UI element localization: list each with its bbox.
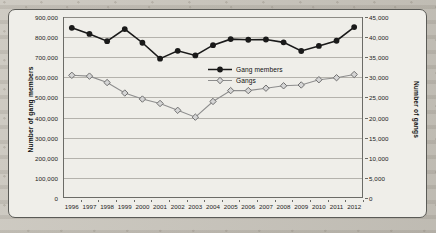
data-point	[227, 87, 233, 93]
legend-key-filled-circle-icon	[207, 64, 233, 75]
x-axis-tick-label: 2004	[206, 203, 220, 210]
legend-label-gang-members: Gang members	[233, 66, 283, 73]
x-axis-tickmark	[345, 200, 346, 202]
data-point	[122, 26, 128, 32]
left-axis-tick-label: 100,000	[35, 174, 58, 181]
right-axis-tickmark	[365, 17, 368, 18]
right-axis-tick-label: 35,000	[369, 54, 389, 61]
right-axis-tickmark	[365, 57, 368, 58]
x-axis-tickmark	[257, 200, 258, 202]
data-point	[298, 48, 304, 54]
right-axis-tick-label: 10,000	[369, 154, 389, 161]
right-axis-tickmark	[365, 158, 368, 159]
right-axis-tick-label: 0	[369, 195, 373, 202]
left-axis-tick-label: 900,000	[35, 14, 58, 21]
right-axis-tickmark	[365, 97, 368, 98]
chart-figure: Number of gang members Number of gangs 0…	[8, 9, 427, 218]
data-point	[104, 79, 110, 85]
right-axis-tickmark	[365, 77, 368, 78]
data-point	[139, 96, 145, 102]
x-axis-tickmark	[222, 200, 223, 202]
x-axis-tickmark	[328, 200, 329, 202]
left-axis-ticks: 0100,000200,000300,000400,000500,000600,…	[17, 17, 61, 198]
data-point	[351, 24, 357, 30]
right-axis-tickmark	[365, 178, 368, 179]
data-point	[192, 53, 198, 59]
x-axis-tick-label: 2003	[188, 203, 202, 210]
data-point	[157, 100, 163, 106]
x-axis-tick-label: 2012	[347, 203, 361, 210]
data-point	[316, 77, 322, 83]
data-point	[298, 82, 304, 88]
left-axis-tick-label: 800,000	[35, 34, 58, 41]
right-axis-tick-label: 40,000	[369, 34, 389, 41]
right-axis-tick-label: 30,000	[369, 74, 389, 81]
data-point	[69, 72, 75, 78]
legend-key-open-diamond-icon	[207, 75, 233, 86]
x-axis-tickmark	[116, 200, 117, 202]
data-point	[175, 48, 181, 54]
data-point	[175, 107, 181, 113]
data-point	[87, 31, 93, 37]
x-axis-tickmark	[204, 200, 205, 202]
chart-legend: Gang members Gangs	[207, 64, 283, 86]
right-axis-tick-label: 25,000	[369, 94, 389, 101]
data-point	[86, 73, 92, 79]
right-axis-tickmark	[365, 138, 368, 139]
left-axis-tick-label: 0	[54, 195, 58, 202]
data-point	[157, 56, 163, 62]
right-axis-tickmark	[365, 37, 368, 38]
x-axis-tickmark	[363, 200, 364, 202]
x-axis-tick-label: 2011	[330, 203, 344, 210]
right-axis-ticks: 05,00010,00015,00020,00025,00030,00035,0…	[365, 17, 415, 198]
x-axis-tick-label: 2006	[241, 203, 255, 210]
left-axis-tick-label: 500,000	[35, 94, 58, 101]
data-point	[122, 90, 128, 96]
x-axis-tickmark	[151, 200, 152, 202]
x-axis-tick-label: 2001	[153, 203, 167, 210]
x-axis-tick-label: 2007	[259, 203, 273, 210]
x-axis-tick-label: 1999	[118, 203, 132, 210]
data-point	[281, 39, 287, 45]
x-axis-tickmark	[81, 200, 82, 202]
legend-label-gangs: Gangs	[233, 77, 256, 84]
data-point	[228, 36, 234, 42]
left-axis-tick-label: 600,000	[35, 74, 58, 81]
data-point	[263, 37, 269, 43]
x-axis-tick-label: 1997	[82, 203, 96, 210]
legend-entry-gang-members: Gang members	[207, 64, 283, 75]
data-point	[334, 38, 340, 44]
right-axis-tickmark	[365, 118, 368, 119]
right-axis-tick-label: 5,000	[369, 174, 385, 181]
data-point	[140, 40, 146, 46]
right-axis-tick-label: 45,000	[369, 14, 389, 21]
x-axis-tick-label: 2000	[135, 203, 149, 210]
x-axis-tickmark	[310, 200, 311, 202]
x-axis-tick-label: 1996	[65, 203, 79, 210]
x-axis-tick-label: 2002	[171, 203, 185, 210]
x-axis-tick-label: 2009	[294, 203, 308, 210]
data-point	[351, 71, 357, 77]
data-point	[210, 42, 216, 48]
data-point	[245, 87, 251, 93]
left-axis-tick-label: 300,000	[35, 134, 58, 141]
x-axis-tickmark	[169, 200, 170, 202]
x-axis: 1996199719981999200020012002200320042005…	[63, 200, 363, 214]
x-axis-tickmark	[187, 200, 188, 202]
x-axis-tickmark	[275, 200, 276, 202]
x-axis-tick-label: 2005	[224, 203, 238, 210]
x-axis-tick-label: 2008	[277, 203, 291, 210]
x-axis-tickmark	[239, 200, 240, 202]
data-point	[316, 43, 322, 49]
left-axis-tick-label: 400,000	[35, 114, 58, 121]
x-axis-tickmark	[98, 200, 99, 202]
x-axis-tick-label: 1998	[100, 203, 114, 210]
left-axis-tick-label: 200,000	[35, 154, 58, 161]
legend-entry-gangs: Gangs	[207, 75, 283, 86]
x-axis-tick-label: 2010	[312, 203, 326, 210]
right-axis-tickmark	[365, 198, 368, 199]
series-layer	[63, 17, 363, 198]
x-axis-tickmark	[292, 200, 293, 202]
x-axis-tickmark	[134, 200, 135, 202]
right-axis-tick-label: 15,000	[369, 134, 389, 141]
